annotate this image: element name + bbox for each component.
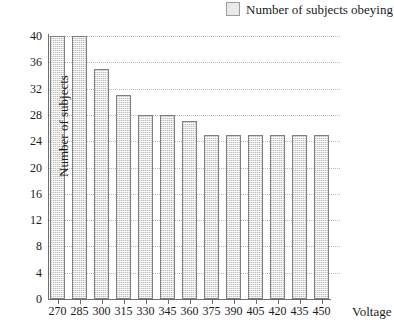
y-axis-tick-label: 16 bbox=[30, 188, 42, 200]
y-axis-tick-label: 24 bbox=[30, 135, 42, 147]
x-axis-title: Voltage bbox=[352, 304, 391, 320]
y-axis-line bbox=[48, 34, 49, 299]
y-axis-tick-label: 32 bbox=[30, 83, 42, 95]
x-axis-tick-label: 450 bbox=[307, 305, 337, 317]
bar-450 bbox=[314, 135, 329, 299]
bar-330 bbox=[138, 115, 153, 299]
y-axis-tick-labels: 0481216202428323640 bbox=[18, 36, 42, 299]
y-axis-tick-label: 36 bbox=[30, 56, 42, 68]
x-axis-tick-labels: 270285300315330345360375390405420435450 bbox=[48, 305, 340, 321]
bar-375 bbox=[204, 135, 219, 299]
legend-label: Number of subjects obeying bbox=[246, 3, 393, 16]
plot-area bbox=[48, 36, 340, 299]
bar-360 bbox=[182, 121, 197, 299]
y-axis-tick-label: 40 bbox=[30, 30, 42, 42]
legend-swatch-icon bbox=[226, 2, 240, 16]
bar-series bbox=[48, 36, 340, 299]
bar-435 bbox=[292, 135, 307, 299]
y-axis-title: Number of subjects bbox=[56, 56, 72, 196]
bar-390 bbox=[226, 135, 241, 299]
y-axis-tick-label: 0 bbox=[36, 293, 42, 305]
y-axis-tick-label: 12 bbox=[30, 214, 42, 226]
chart-legend: Number of subjects obeying bbox=[226, 2, 393, 16]
bar-300 bbox=[94, 69, 109, 299]
bar-285 bbox=[72, 36, 87, 299]
bar-420 bbox=[270, 135, 285, 299]
bar-345 bbox=[160, 115, 175, 299]
y-axis-tick-label: 20 bbox=[30, 162, 42, 174]
bar-405 bbox=[248, 135, 263, 299]
y-axis-tick-label: 8 bbox=[36, 240, 42, 252]
bar-315 bbox=[116, 95, 131, 299]
y-axis-tick-label: 28 bbox=[30, 109, 42, 121]
y-axis-tick-label: 4 bbox=[36, 267, 42, 279]
